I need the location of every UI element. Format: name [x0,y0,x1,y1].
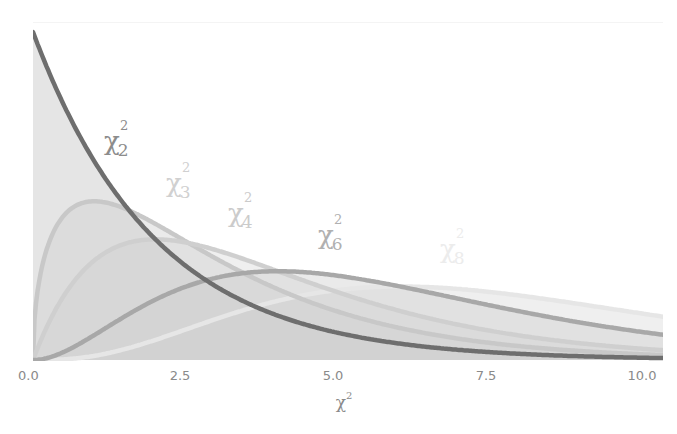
label-chi2-df2: χ22 [104,128,131,154]
squared-superscript: 2 [456,227,464,240]
label-chi2-df3: χ32 [166,170,193,196]
x-axis-title: χ2 [336,392,353,412]
squared-superscript: 2 [120,119,128,132]
df-subscript: 3 [180,182,191,202]
label-chi2-df8: χ82 [440,236,467,262]
df-subscript: 8 [454,248,465,268]
df-subscript: 2 [118,140,129,160]
axis-title-superscript: 2 [346,390,352,401]
x-tick-5: 5.0 [323,368,344,383]
squared-superscript: 2 [182,161,190,174]
area-fills [33,32,670,360]
x-tick-2-5: 2.5 [170,368,191,383]
df-subscript: 4 [242,212,253,232]
x-tick-7-5: 7.5 [476,368,497,383]
axis-title-base: χ [336,392,346,412]
x-tick-10: 10.0 [628,368,657,383]
label-chi2-df6: χ62 [318,222,345,248]
x-tick-0: 0.0 [18,368,39,383]
squared-superscript: 2 [334,213,342,226]
squared-superscript: 2 [244,191,252,204]
label-chi2-df4: χ42 [228,200,255,226]
df-subscript: 6 [332,234,343,254]
